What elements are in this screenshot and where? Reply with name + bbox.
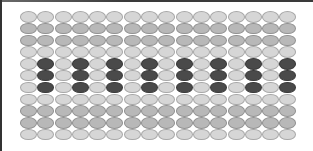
bead-r7-c11	[193, 82, 210, 94]
bead-r8-c8	[141, 94, 158, 106]
bead-r7-c8	[141, 82, 158, 94]
bead-r7-c4	[72, 82, 89, 94]
bead-r10-c8	[141, 117, 158, 129]
bead-r6-c6	[106, 70, 123, 82]
bead-r1-c4	[72, 11, 89, 23]
bead-r8-c13	[228, 94, 245, 106]
bead-r10-c14	[245, 117, 262, 129]
bead-r8-c6	[106, 94, 123, 106]
bead-r9-c13	[228, 105, 245, 117]
bead-r5-c8	[141, 58, 158, 70]
bead-r4-c16	[279, 46, 296, 58]
bead-r2-c14	[245, 23, 262, 35]
bead-r11-c15	[262, 129, 279, 141]
bead-r10-c2	[37, 117, 54, 129]
bead-r8-c10	[176, 94, 193, 106]
bead-r9-c15	[262, 105, 279, 117]
bead-r4-c10	[176, 46, 193, 58]
bead-r10-c9	[158, 117, 175, 129]
bead-r11-c1	[20, 129, 37, 141]
bead-r5-c9	[158, 58, 175, 70]
bead-r8-c15	[262, 94, 279, 106]
bead-r3-c9	[158, 35, 175, 47]
bead-r3-c2	[37, 35, 54, 47]
bead-r6-c5	[89, 70, 106, 82]
bead-r2-c15	[262, 23, 279, 35]
bead-r10-c10	[176, 117, 193, 129]
bead-r1-c15	[262, 11, 279, 23]
bead-r6-c4	[72, 70, 89, 82]
bead-r7-c10	[176, 82, 193, 94]
bead-r6-c8	[141, 70, 158, 82]
bead-r11-c2	[37, 129, 54, 141]
bead-r11-c10	[176, 129, 193, 141]
bead-r6-c13	[228, 70, 245, 82]
bead-r9-c12	[210, 105, 227, 117]
bead-r8-c14	[245, 94, 262, 106]
bead-r11-c8	[141, 129, 158, 141]
bead-r2-c12	[210, 23, 227, 35]
bead-r8-c7	[124, 94, 141, 106]
bead-r1-c7	[124, 11, 141, 23]
bead-r6-c12	[210, 70, 227, 82]
bead-r6-c7	[124, 70, 141, 82]
bead-r5-c5	[89, 58, 106, 70]
bead-r9-c9	[158, 105, 175, 117]
bead-r1-c9	[158, 11, 175, 23]
clipped-caption	[8, 146, 308, 151]
bead-r11-c13	[228, 129, 245, 141]
bead-r9-c1	[20, 105, 37, 117]
bead-r11-c6	[106, 129, 123, 141]
bead-r6-c10	[176, 70, 193, 82]
bead-r8-c11	[193, 94, 210, 106]
bead-r6-c3	[55, 70, 72, 82]
bead-r7-c5	[89, 82, 106, 94]
bead-grid	[20, 11, 297, 141]
bead-r5-c1	[20, 58, 37, 70]
bead-r8-c12	[210, 94, 227, 106]
bead-r9-c7	[124, 105, 141, 117]
bead-r6-c11	[193, 70, 210, 82]
bead-r5-c2	[37, 58, 54, 70]
bead-r10-c4	[72, 117, 89, 129]
bead-r7-c3	[55, 82, 72, 94]
bead-r8-c5	[89, 94, 106, 106]
bead-r10-c13	[228, 117, 245, 129]
bead-r2-c4	[72, 23, 89, 35]
bead-r4-c13	[228, 46, 245, 58]
bead-r1-c6	[106, 11, 123, 23]
bead-r2-c11	[193, 23, 210, 35]
bead-r5-c14	[245, 58, 262, 70]
bead-r2-c13	[228, 23, 245, 35]
bead-r10-c6	[106, 117, 123, 129]
bead-r8-c4	[72, 94, 89, 106]
bead-r11-c16	[279, 129, 296, 141]
bead-r7-c9	[158, 82, 175, 94]
bead-r2-c7	[124, 23, 141, 35]
bead-r7-c6	[106, 82, 123, 94]
bead-r4-c9	[158, 46, 175, 58]
bead-r10-c5	[89, 117, 106, 129]
bead-r5-c7	[124, 58, 141, 70]
bead-r1-c2	[37, 11, 54, 23]
bead-r10-c12	[210, 117, 227, 129]
frame-left-border	[0, 0, 2, 151]
bead-r7-c13	[228, 82, 245, 94]
bead-r10-c16	[279, 117, 296, 129]
bead-r4-c11	[193, 46, 210, 58]
bead-r8-c2	[37, 94, 54, 106]
bead-r5-c10	[176, 58, 193, 70]
bead-r4-c7	[124, 46, 141, 58]
bead-r3-c5	[89, 35, 106, 47]
bead-r2-c6	[106, 23, 123, 35]
bead-r8-c9	[158, 94, 175, 106]
bead-r1-c1	[20, 11, 37, 23]
bead-r1-c12	[210, 11, 227, 23]
bead-r4-c1	[20, 46, 37, 58]
bead-r10-c15	[262, 117, 279, 129]
bead-r3-c6	[106, 35, 123, 47]
bead-r6-c16	[279, 70, 296, 82]
bead-r6-c2	[37, 70, 54, 82]
bead-r4-c15	[262, 46, 279, 58]
bead-r7-c2	[37, 82, 54, 94]
